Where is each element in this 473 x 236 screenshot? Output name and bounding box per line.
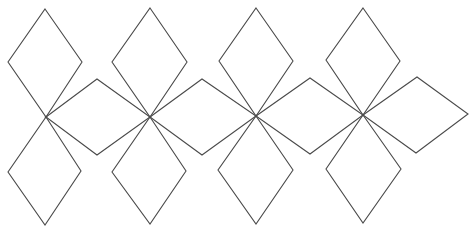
rhombus-net-diagram [0,0,473,236]
shared-vertex [255,115,258,118]
shared-vertex [45,116,48,119]
shared-vertex [149,116,152,119]
shared-vertex [362,114,365,117]
